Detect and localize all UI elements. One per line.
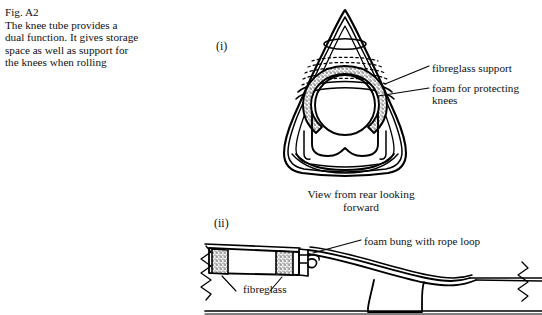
label-foam-for-protecting-knees: foam for protecting knees bbox=[432, 82, 536, 107]
label-fibreglass-support: fibreglass support bbox=[432, 62, 512, 74]
label-fibreglass: fibreglass bbox=[243, 283, 287, 295]
leader-lines-and-break-marks bbox=[0, 0, 542, 315]
label-foam-bung-with-rope-loop: foam bung with rope loop bbox=[364, 235, 480, 247]
figure-root: Fig. A2 The knee tube provides a dual fu… bbox=[0, 0, 542, 315]
